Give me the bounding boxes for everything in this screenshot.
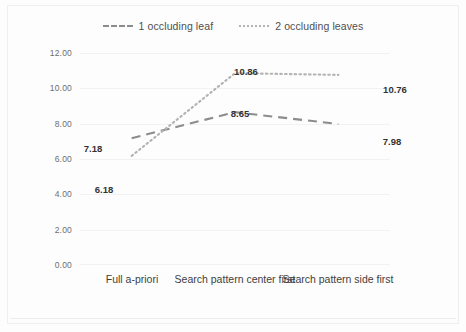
data-label: 6.18 — [95, 184, 114, 195]
y-tick-label: 0.00 — [55, 260, 72, 270]
y-tick-label: 12.00 — [50, 48, 72, 58]
y-tick-label: 4.00 — [55, 189, 72, 199]
legend-item-label: 2 occluding leaves — [275, 20, 363, 32]
data-label: 8.65 — [231, 108, 250, 119]
data-label: 7.98 — [383, 136, 402, 147]
y-axis-tick-labels: 12.00 10.00 8.00 6.00 4.00 2.00 0.00 — [0, 53, 78, 265]
chart-legend: 1 occluding leaf 2 occluding leaves — [0, 20, 466, 32]
dashed-line-swatch-icon — [103, 25, 133, 27]
x-tick-label: Search pattern side first — [276, 272, 400, 286]
data-label: 10.86 — [234, 66, 258, 77]
legend-item-1-occluding-leaf[interactable]: 1 occluding leaf — [103, 20, 214, 32]
y-tick-label: 8.00 — [55, 119, 72, 129]
chart-figure: 1 occluding leaf 2 occluding leaves Aver… — [0, 0, 466, 332]
y-tick-label: 10.00 — [50, 83, 72, 93]
series-lines — [80, 53, 390, 265]
dotted-line-swatch-icon — [239, 25, 269, 27]
figure-bottom-rule — [10, 318, 456, 319]
data-label: 10.76 — [383, 84, 407, 95]
data-label: 7.18 — [84, 143, 103, 154]
plot-area: 7.18 8.65 7.98 6.18 10.86 10.76 — [80, 53, 390, 265]
y-tick-label: 6.00 — [55, 154, 72, 164]
legend-item-2-occluding-leaves[interactable]: 2 occluding leaves — [239, 20, 363, 32]
y-tick-label: 2.00 — [55, 225, 72, 235]
x-axis-tick-labels: Full a-priori Search pattern center firs… — [80, 272, 390, 320]
legend-item-label: 1 occluding leaf — [139, 20, 214, 32]
